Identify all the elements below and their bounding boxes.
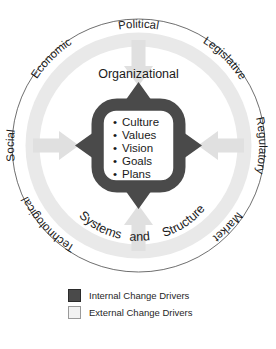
and-word: and xyxy=(129,229,150,244)
legend: Internal Change Drivers External Change … xyxy=(68,288,238,322)
legend-item-internal: Internal Change Drivers xyxy=(68,288,238,303)
legend-label-internal: Internal Change Drivers xyxy=(89,290,189,301)
core-bullet: • xyxy=(113,168,117,180)
core-item-label: Goals xyxy=(122,155,152,167)
core-bullet: • xyxy=(113,142,117,154)
core-bullet: • xyxy=(113,129,117,141)
legend-label-external: External Change Drivers xyxy=(89,307,193,318)
core-item-label: Culture xyxy=(122,116,159,128)
figure-caption xyxy=(8,336,268,348)
core-bullet: • xyxy=(113,155,117,167)
organizational-label: Organizational xyxy=(98,67,179,81)
core-item-label: Values xyxy=(122,129,157,141)
core-item-label: Plans xyxy=(122,168,151,180)
ring-label-political: Political xyxy=(117,18,160,32)
ring-label-regulatory: Regulatory xyxy=(254,116,269,176)
ring-label-social: Social xyxy=(4,129,17,163)
legend-item-external: External Change Drivers xyxy=(68,305,238,320)
and-word-label: and xyxy=(129,229,150,244)
legend-swatch-internal-icon xyxy=(68,289,81,302)
core-bullet: • xyxy=(113,116,117,128)
legend-swatch-external-icon xyxy=(68,306,81,319)
core-item-label: Vision xyxy=(122,142,153,154)
